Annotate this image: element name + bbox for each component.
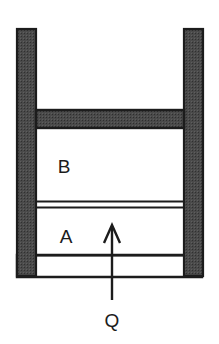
right-wall	[184, 29, 203, 276]
chamber-open-top-region	[36, 29, 184, 110]
cylinder-base	[17, 255, 202, 277]
chamber-a-label: A	[60, 226, 73, 247]
diagram-canvas: B A Q	[0, 0, 219, 344]
chamber-b-label: B	[58, 156, 71, 177]
chamber-divider	[36, 202, 184, 208]
base-plate	[17, 255, 202, 277]
piston-cylinder-diagram: B A Q	[0, 0, 219, 344]
piston-partition-bar	[36, 110, 184, 128]
chamber-interiors	[36, 29, 184, 255]
heat-input-label: Q	[105, 310, 120, 331]
piston-bar-body	[36, 110, 184, 128]
left-wall	[17, 29, 36, 276]
